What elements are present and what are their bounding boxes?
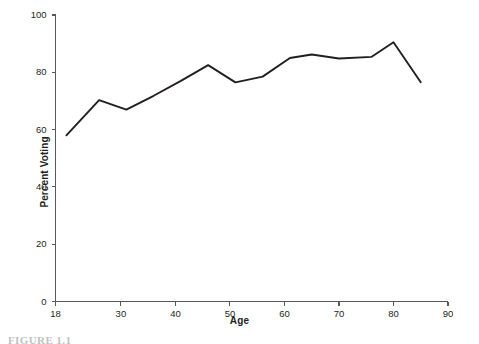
y-tick-label-100: 100 [0,10,47,20]
data-line-percent-voting [66,42,420,135]
y-tick-label-20: 20 [0,239,47,249]
y-tick-label-80: 80 [0,68,47,78]
figure-container: 020406080100 1830405060708090 Percent Vo… [0,0,479,344]
chart-axes [55,15,448,302]
line-chart-canvas [0,0,479,344]
figure-caption: FIGURE 1.1 [8,334,71,344]
y-tick-label-60: 60 [0,125,47,135]
y-tick-label-0: 0 [0,297,47,307]
y-axis-title: Percent Voting [39,136,50,207]
chart-series-group [66,42,420,135]
x-axis-title: Age [0,315,479,326]
